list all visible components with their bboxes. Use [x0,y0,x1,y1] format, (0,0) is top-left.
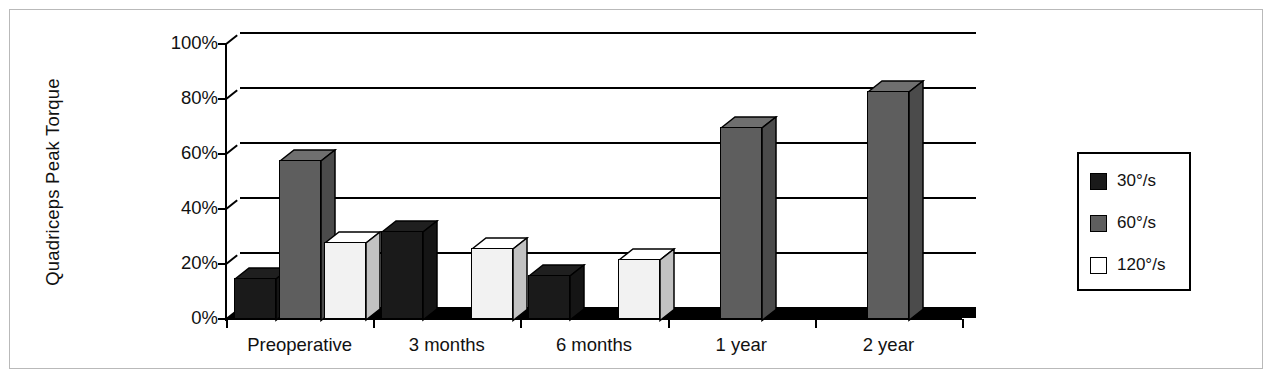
bar [618,259,660,320]
y-axis-tick-label: 20% [146,254,218,273]
bar [471,248,513,320]
x-axis-tick-mark [520,319,522,328]
x-axis-tick-mark [226,319,228,328]
y-axis-tick-label: 80% [146,89,218,108]
bar [528,275,570,319]
gridline-depth-connector [226,200,238,210]
gridline [240,87,976,89]
y-axis-tick-label: 60% [146,144,218,163]
gridline [240,32,976,34]
x-axis-tick-mark [962,319,964,328]
bar-side-face [569,264,586,322]
bar [279,160,321,320]
bar-front-face [618,259,660,320]
legend-label: 30°/s [1117,171,1156,191]
bar-front-face [324,242,366,319]
y-axis-tick-label: 40% [146,199,218,218]
gridline [240,197,976,199]
gridline-depth-connector [226,255,238,265]
bar-side-face [659,248,676,323]
bar-side-face [365,231,382,322]
x-axis-tick-mark [668,319,670,328]
gridline-depth-connector [226,90,238,100]
y-axis-tick-label: 0% [146,309,218,328]
legend-label: 120°/s [1117,255,1165,275]
legend-swatch [1090,173,1107,190]
y-axis-title: Quadriceps Peak Torque [42,32,64,332]
legend-item: 30°/s [1090,171,1156,191]
bar-front-face [381,231,423,319]
x-axis-category-label: 1 year [668,334,815,356]
bar [381,231,423,319]
bar [720,127,762,320]
bar-side-face [422,220,439,322]
legend-swatch [1090,257,1107,274]
x-axis-category-label: 6 months [520,334,667,356]
y-axis-line [225,43,227,321]
bar-front-face [234,278,276,319]
chart-legend: 30°/s60°/s120°/s [1077,152,1191,291]
gridline-depth-connector [226,145,238,155]
bar-front-face [279,160,321,320]
gridline [240,142,976,144]
legend-swatch [1090,215,1107,232]
bar [234,278,276,319]
bar-side-face [761,116,778,323]
x-axis-category-label: Preoperative [226,334,373,356]
bar [324,242,366,319]
y-axis-tick-label: 100% [146,34,218,53]
bar-front-face [720,127,762,320]
bar [867,91,909,319]
bar-side-face [512,237,529,323]
gridline-depth-connector [226,35,238,45]
x-axis-tick-mark [373,319,375,328]
legend-item: 120°/s [1090,255,1165,275]
x-axis-category-label: 2 year [815,334,962,356]
bar-side-face [908,80,925,322]
bar-front-face [867,91,909,319]
x-axis-tick-mark [815,319,817,328]
x-axis-category-label: 3 months [373,334,520,356]
legend-label: 60°/s [1117,213,1156,233]
bar-front-face [471,248,513,320]
legend-item: 60°/s [1090,213,1156,233]
bar-front-face [528,275,570,319]
